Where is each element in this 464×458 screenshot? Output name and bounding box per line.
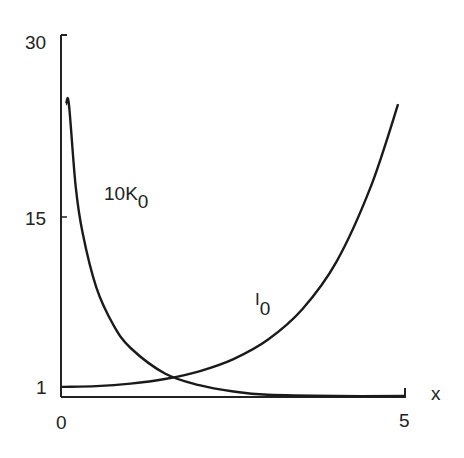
y-axis xyxy=(61,35,67,397)
chart-figure: 30 15 1 0 5 x 10K0 I0 xyxy=(0,0,464,458)
x-axis-label: x xyxy=(431,383,441,404)
x-tick-label-0: 0 xyxy=(56,412,67,433)
y-tick-label-15: 15 xyxy=(25,208,46,229)
x-tick-label-5: 5 xyxy=(399,410,410,431)
k0-curve-label: 10K0 xyxy=(104,183,148,212)
i0-curve xyxy=(62,104,398,387)
i0-label-sub: 0 xyxy=(260,298,271,319)
i0-curve-label: I0 xyxy=(255,290,270,319)
k0-label-main: 10K xyxy=(104,183,138,204)
k0-label-sub: 0 xyxy=(138,191,149,212)
y-tick-label-30: 30 xyxy=(25,32,46,53)
y-tick-label-1: 1 xyxy=(36,377,47,398)
plot-area: 30 15 1 0 5 x 10K0 I0 xyxy=(0,0,464,458)
k0-curve xyxy=(66,98,405,396)
